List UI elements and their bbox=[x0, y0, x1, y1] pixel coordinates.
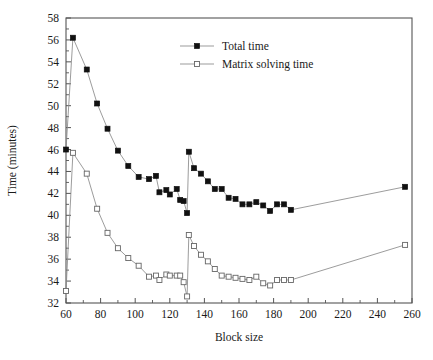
data-point bbox=[115, 148, 120, 153]
y-tick-label: 54 bbox=[48, 56, 60, 68]
data-point bbox=[115, 246, 120, 251]
data-point bbox=[275, 202, 280, 207]
y-tick-label: 36 bbox=[48, 253, 60, 265]
data-point bbox=[136, 263, 141, 268]
data-point bbox=[186, 233, 191, 238]
data-point bbox=[254, 200, 259, 205]
data-point bbox=[281, 277, 286, 282]
data-point bbox=[147, 274, 152, 279]
chart-container: 6080100120140160180200220240260Block siz… bbox=[0, 0, 433, 360]
data-point bbox=[64, 288, 69, 293]
data-point bbox=[178, 273, 183, 278]
x-tick-label: 220 bbox=[334, 308, 352, 320]
data-point bbox=[185, 211, 190, 216]
y-tick-label: 44 bbox=[48, 165, 60, 177]
data-point bbox=[126, 256, 131, 261]
data-point bbox=[95, 206, 100, 211]
data-point bbox=[136, 174, 141, 179]
data-point bbox=[192, 244, 197, 249]
data-point bbox=[205, 259, 210, 264]
y-tick-label: 58 bbox=[48, 12, 60, 24]
data-point bbox=[268, 283, 273, 288]
data-point bbox=[70, 150, 75, 155]
data-point bbox=[205, 179, 210, 184]
legend-marker-1 bbox=[195, 62, 200, 67]
y-tick-label: 42 bbox=[48, 187, 60, 199]
data-point bbox=[185, 294, 190, 299]
data-point bbox=[105, 126, 110, 131]
y-tick-label: 32 bbox=[48, 297, 60, 309]
x-tick-label: 100 bbox=[127, 308, 145, 320]
y-axis-title: Time (minutes) bbox=[6, 125, 19, 196]
data-point bbox=[157, 190, 162, 195]
y-tick-label: 38 bbox=[48, 231, 60, 243]
x-tick-label: 180 bbox=[265, 308, 283, 320]
data-point bbox=[288, 207, 293, 212]
legend-label-0: Total time bbox=[222, 40, 269, 52]
line-chart: 6080100120140160180200220240260Block siz… bbox=[0, 0, 433, 360]
data-point bbox=[147, 177, 152, 182]
data-point bbox=[70, 35, 75, 40]
data-point bbox=[403, 184, 408, 189]
data-point bbox=[247, 277, 252, 282]
data-point bbox=[288, 277, 293, 282]
data-point bbox=[268, 208, 273, 213]
data-point bbox=[153, 173, 158, 178]
data-point bbox=[157, 277, 162, 282]
data-point bbox=[84, 171, 89, 176]
data-point bbox=[261, 203, 266, 208]
data-point bbox=[181, 199, 186, 204]
y-tick-label: 48 bbox=[48, 122, 60, 134]
data-point bbox=[198, 171, 203, 176]
data-point bbox=[247, 202, 252, 207]
data-point bbox=[186, 149, 191, 154]
y-tick-label: 56 bbox=[48, 34, 60, 46]
y-tick-label: 50 bbox=[48, 100, 60, 112]
data-point bbox=[167, 192, 172, 197]
data-point bbox=[105, 230, 110, 235]
x-tick-label: 80 bbox=[95, 308, 107, 320]
x-axis-title: Block size bbox=[215, 331, 263, 343]
data-point bbox=[226, 274, 231, 279]
data-point bbox=[174, 187, 179, 192]
data-point bbox=[240, 202, 245, 207]
data-point bbox=[254, 274, 259, 279]
y-tick-label: 52 bbox=[48, 78, 60, 90]
data-point bbox=[233, 196, 238, 201]
x-tick-label: 160 bbox=[230, 308, 248, 320]
data-point bbox=[403, 242, 408, 247]
data-point bbox=[281, 202, 286, 207]
data-point bbox=[126, 163, 131, 168]
data-point bbox=[219, 273, 224, 278]
x-tick-label: 200 bbox=[300, 308, 318, 320]
data-point bbox=[212, 187, 217, 192]
x-tick-label: 60 bbox=[60, 308, 72, 320]
data-point bbox=[226, 195, 231, 200]
y-tick-label: 46 bbox=[48, 144, 60, 156]
x-tick-label: 240 bbox=[369, 308, 387, 320]
x-tick-label: 260 bbox=[403, 308, 421, 320]
y-tick-label: 40 bbox=[48, 209, 60, 221]
data-point bbox=[275, 277, 280, 282]
legend-label-1: Matrix solving time bbox=[222, 58, 313, 71]
data-point bbox=[167, 273, 172, 278]
data-point bbox=[192, 166, 197, 171]
data-point bbox=[233, 275, 238, 280]
x-tick-label: 120 bbox=[161, 308, 179, 320]
data-point bbox=[84, 67, 89, 72]
y-tick-label: 34 bbox=[48, 275, 60, 287]
data-point bbox=[95, 101, 100, 106]
data-point bbox=[261, 281, 266, 286]
legend-marker-0 bbox=[195, 44, 200, 49]
data-point bbox=[198, 252, 203, 257]
data-point bbox=[219, 187, 224, 192]
data-point bbox=[64, 147, 69, 152]
x-tick-label: 140 bbox=[196, 308, 214, 320]
data-point bbox=[240, 276, 245, 281]
data-point bbox=[181, 280, 186, 285]
data-point bbox=[212, 267, 217, 272]
